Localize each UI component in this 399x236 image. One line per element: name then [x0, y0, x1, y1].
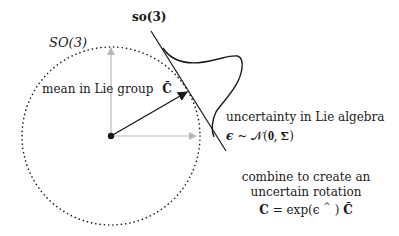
eq-exp: = exp(ϵ [273, 203, 320, 217]
so3-group-label: SO(3) [49, 35, 87, 50]
combine-line-2: uncertain rotation [251, 185, 362, 199]
eq-mean: C̄ [343, 201, 353, 217]
mean-rotation-arrow [111, 92, 187, 136]
mean-text: mean in Lie group [42, 82, 154, 96]
lie-group-diagram: SO(3) so(3) mean in Lie group C̄ uncerta… [0, 0, 399, 236]
mean-symbol: C̄ [162, 80, 172, 96]
eq-lhs: C [259, 203, 269, 217]
origin-dot [108, 133, 114, 139]
eq-wedge: ^ [323, 201, 331, 211]
combine-line-1: combine to create an [242, 170, 371, 184]
combine-equation: C = exp(ϵ ^ ) C̄ [259, 198, 353, 217]
mean-label: mean in Lie group C̄ [42, 80, 172, 96]
epsilon-symbol: ϵ [226, 129, 234, 143]
eq-close: ) [335, 203, 340, 217]
normal-dist-text: ~ 𝒩(𝟎, 𝚺) [237, 129, 294, 143]
uncertainty-equation: ϵ ~ 𝒩(𝟎, 𝚺) [226, 129, 294, 143]
so3-algebra-label: so(3) [132, 10, 166, 24]
uncertainty-title: uncertainty in Lie algebra [226, 110, 384, 124]
